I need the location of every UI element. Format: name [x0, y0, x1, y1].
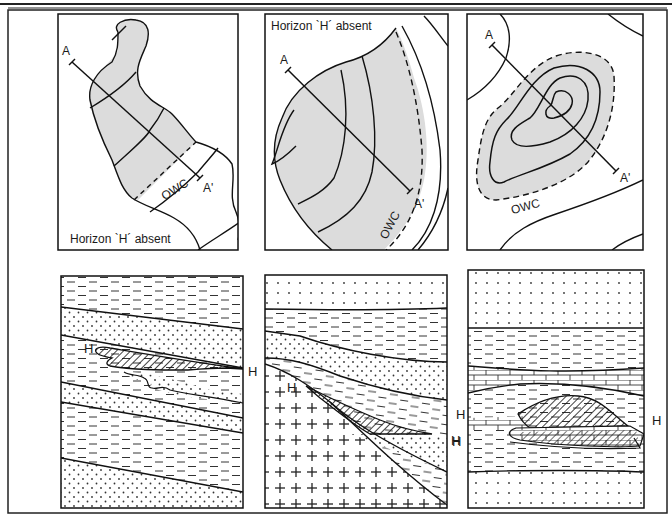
horizon-label-right: H — [652, 413, 661, 428]
section-start-label: A — [485, 28, 493, 42]
map-panel-3: A A' OWC — [467, 14, 643, 250]
section-panel-1: H H — [61, 276, 257, 508]
horizon-absent-note: Horizon `H´ absent — [271, 19, 372, 33]
section-end-label: A' — [203, 181, 213, 195]
section-end-label: A' — [414, 197, 424, 211]
horizon-label-left: H — [84, 341, 93, 356]
section-panel-2: H H — [265, 275, 460, 508]
horizon-label-left: H — [287, 380, 296, 395]
section-start-label: A — [280, 53, 288, 67]
section-panel-3: H H H — [452, 270, 661, 508]
horizon-absent-note: Horizon `H´ absent — [70, 232, 171, 246]
horizon-label-left-lower: H — [452, 434, 461, 449]
horizon-label-right: H — [248, 364, 257, 379]
owc-label: OWC — [159, 176, 192, 204]
owc-label: OWC — [509, 196, 541, 217]
section-end-label: A' — [620, 171, 630, 185]
horizon-label-left-upper: H — [456, 407, 465, 422]
map-panel-2: Horizon `H´ absent A A' OWC — [265, 14, 448, 250]
reservoir-area — [89, 20, 196, 200]
stratigraphic-trap-figure: A A' OWC Horizon `H´ absent Horiz — [0, 0, 672, 519]
section-start-label: A — [62, 44, 70, 58]
map-panel-1: A A' OWC Horizon `H´ absent — [58, 14, 240, 250]
